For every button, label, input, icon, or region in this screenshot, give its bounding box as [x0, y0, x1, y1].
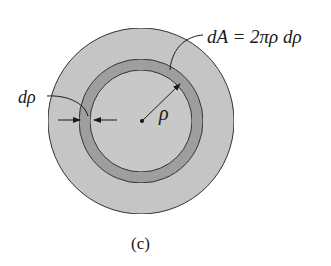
thickness-label: dρ — [18, 87, 36, 107]
area-element-label: dA = 2πρ dρ — [207, 26, 302, 47]
radius-label: ρ — [158, 102, 169, 125]
figure-caption: (c) — [131, 234, 150, 253]
cross-section-diagram: dA = 2πρ dρ dρ ρ (c) — [0, 0, 331, 266]
